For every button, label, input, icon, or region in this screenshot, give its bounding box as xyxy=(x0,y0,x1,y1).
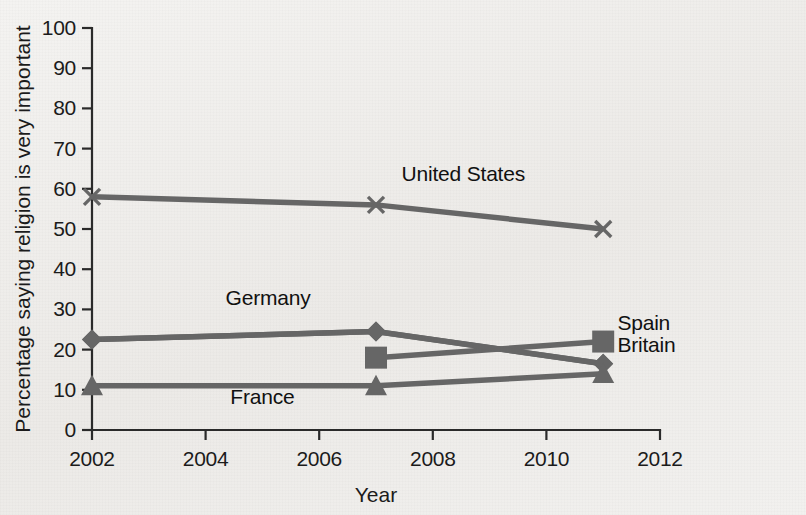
y-tick-label-40: 40 xyxy=(53,257,76,280)
x-tick-label-2012: 2012 xyxy=(637,447,683,470)
series-label-france: France xyxy=(230,385,294,408)
series-labels: United StatesGermanySpainBritainFrance xyxy=(226,162,676,408)
y-tick-label-10: 10 xyxy=(53,378,76,401)
series-label-spain: Spain xyxy=(617,311,670,334)
y-tick-label-60: 60 xyxy=(53,177,76,200)
axis-lines xyxy=(92,28,660,430)
x-tick-label-2010: 2010 xyxy=(524,447,570,470)
axis-tick-labels: 0102030405060708090100200220042006200820… xyxy=(42,16,683,470)
data-series xyxy=(81,189,614,395)
series-label-britain: Britain xyxy=(617,333,675,356)
marker-spain-2007 xyxy=(365,347,387,369)
marker-britain-2007 xyxy=(366,322,386,342)
y-tick-label-80: 80 xyxy=(53,96,76,119)
y-tick-label-90: 90 xyxy=(53,56,76,79)
series-line-france xyxy=(92,374,603,386)
x-tick-label-2008: 2008 xyxy=(410,447,456,470)
line-chart: 0102030405060708090100200220042006200820… xyxy=(0,0,806,515)
series-label-united-states: United States xyxy=(402,162,525,185)
y-axis-title: Percentage saying religion is very impor… xyxy=(11,25,34,433)
axis-ticks xyxy=(82,28,660,440)
series-line-united-states xyxy=(92,197,603,229)
marker-spain-2011 xyxy=(592,331,614,353)
y-tick-label-30: 30 xyxy=(53,297,76,320)
y-tick-label-20: 20 xyxy=(53,338,76,361)
y-tick-label-0: 0 xyxy=(65,418,76,441)
chart-page: 0102030405060708090100200220042006200820… xyxy=(0,0,806,515)
axes xyxy=(92,28,660,430)
x-axis-title: Year xyxy=(355,483,397,506)
y-tick-label-100: 100 xyxy=(42,16,76,39)
y-tick-label-50: 50 xyxy=(53,217,76,240)
x-tick-label-2006: 2006 xyxy=(296,447,342,470)
series-label-germany: Germany xyxy=(226,286,312,309)
x-tick-label-2002: 2002 xyxy=(69,447,115,470)
marker-britain-2002 xyxy=(82,330,102,350)
x-tick-label-2004: 2004 xyxy=(183,447,229,470)
y-tick-label-70: 70 xyxy=(53,137,76,160)
